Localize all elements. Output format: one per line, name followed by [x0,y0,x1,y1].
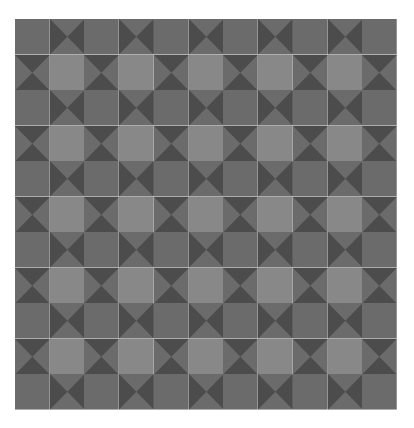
quilt-tile-light-square [119,55,154,91]
quilt-tile-hourglass-vertical [293,268,328,304]
quilt-tile-hourglass-vertical [293,126,328,162]
quilt-tile-light-square [258,197,293,233]
quilt-tile-hourglass-vertical [15,268,50,304]
quilt-tile-hourglass-vertical [293,197,328,233]
quilt-tile-hourglass-vertical [223,339,258,375]
quilt-tile-hourglass-vertical [362,126,397,162]
quilt-tile-light-square [328,126,363,162]
quilt-tile-plain [293,19,328,55]
quilt-tile-plain [223,232,258,268]
quilt-tile-light-square [189,55,224,91]
quilt-tile-plain [154,374,189,410]
quilt-tile-plain [362,161,397,197]
quilt-tile-hourglass-horizontal [189,19,224,55]
quilt-tile-plain [223,90,258,126]
quilt-tile-hourglass-vertical [223,268,258,304]
quilt-tile-plain [293,303,328,339]
quilt-tile-light-square [328,268,363,304]
quilt-tile-light-square [119,197,154,233]
quilt-tile-hourglass-horizontal [258,303,293,339]
quilt-tile-light-square [50,126,85,162]
quilt-tile-light-square [119,339,154,375]
quilt-tile-hourglass-vertical [15,126,50,162]
quilt-tile-hourglass-horizontal [328,19,363,55]
quilt-tile-hourglass-vertical [154,339,189,375]
quilt-tile-plain [293,161,328,197]
quilt-tile-hourglass-vertical [84,339,119,375]
quilt-tile-hourglass-vertical [223,55,258,91]
quilt-tile-plain [362,19,397,55]
quilt-tile-hourglass-horizontal [50,303,85,339]
quilt-tile-light-square [328,197,363,233]
quilt-tile-hourglass-vertical [154,268,189,304]
quilt-tile-hourglass-horizontal [119,19,154,55]
quilt-tile-plain [154,232,189,268]
quilt-tile-plain [293,232,328,268]
quilt-tile-plain [154,90,189,126]
quilt-tile-hourglass-vertical [84,126,119,162]
quilt-tile-plain [362,232,397,268]
quilt-tile-hourglass-horizontal [258,161,293,197]
quilt-tile-hourglass-horizontal [50,19,85,55]
quilt-tile-hourglass-vertical [154,55,189,91]
quilt-tile-light-square [189,268,224,304]
quilt-tile-hourglass-horizontal [328,161,363,197]
quilt-tile-hourglass-vertical [15,339,50,375]
quilt-tile-hourglass-vertical [362,339,397,375]
quilt-tile-hourglass-horizontal [50,90,85,126]
quilt-tile-plain [223,303,258,339]
quilt-tile-hourglass-horizontal [50,374,85,410]
quilt-tile-hourglass-horizontal [119,374,154,410]
quilt-tile-plain [15,232,50,268]
quilt-tile-plain [223,161,258,197]
quilt-tile-plain [362,374,397,410]
quilt-tile-plain [293,90,328,126]
quilt-tile-hourglass-vertical [154,126,189,162]
quilt-tile-light-square [50,197,85,233]
quilt-tile-hourglass-horizontal [189,90,224,126]
quilt-tile-light-square [50,268,85,304]
quilt-tile-plain [84,232,119,268]
quilt-tile-plain [223,19,258,55]
quilt-tile-hourglass-vertical [223,126,258,162]
quilt-tile-plain [15,90,50,126]
quilt-tile-light-square [119,268,154,304]
quilt-tile-light-square [189,126,224,162]
quilt-tile-light-square [258,126,293,162]
quilt-tile-plain [84,19,119,55]
quilt-tile-plain [362,303,397,339]
quilt-tile-hourglass-horizontal [119,161,154,197]
quilt-tile-hourglass-vertical [362,268,397,304]
quilt-tile-plain [362,90,397,126]
quilt-tile-hourglass-vertical [362,55,397,91]
quilt-tile-hourglass-horizontal [119,303,154,339]
quilt-tile-hourglass-horizontal [328,374,363,410]
quilt-tile-hourglass-horizontal [50,232,85,268]
quilt-tile-plain [154,303,189,339]
quilt-tile-plain [84,161,119,197]
quilt-tile-hourglass-vertical [293,55,328,91]
quilt-tile-plain [15,19,50,55]
quilt-tile-hourglass-vertical [223,197,258,233]
quilt-tile-hourglass-vertical [84,55,119,91]
quilt-tile-hourglass-horizontal [258,374,293,410]
quilt-tile-plain [84,374,119,410]
quilt-tile-light-square [258,339,293,375]
quilt-tile-hourglass-vertical [84,268,119,304]
quilt-tile-plain [15,374,50,410]
quilt-tile-plain [154,19,189,55]
quilt-tile-light-square [50,55,85,91]
quilt-tile-hourglass-vertical [84,197,119,233]
quilt-tile-light-square [258,268,293,304]
quilt-tile-light-square [189,339,224,375]
quilt-tile-hourglass-horizontal [189,303,224,339]
quilt-tile-plain [223,374,258,410]
quilt-tile-light-square [328,55,363,91]
quilt-tile-hourglass-vertical [15,197,50,233]
quilt-tile-hourglass-horizontal [189,232,224,268]
quilt-tile-plain [84,303,119,339]
quilt-tile-hourglass-horizontal [258,90,293,126]
quilt-tile-hourglass-vertical [15,55,50,91]
quilt-tile-plain [15,303,50,339]
quilt-tile-hourglass-horizontal [328,303,363,339]
